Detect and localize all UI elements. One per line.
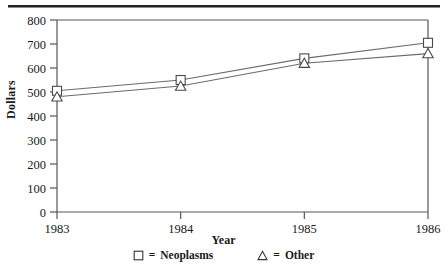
legend-equals-other: =	[273, 249, 280, 261]
data-point-square	[424, 38, 433, 47]
chart-legend: = Neoplasms = Other	[0, 249, 447, 261]
x-axis-title: Year	[0, 233, 447, 248]
y-axis-tick-label: 600	[27, 62, 46, 76]
series-line-other	[57, 54, 428, 97]
y-axis-tick-label: 500	[27, 86, 46, 100]
y-axis-tick-label: 300	[27, 134, 46, 148]
y-axis-tick-label: 200	[27, 158, 46, 172]
legend-label-other: Other	[285, 249, 314, 261]
chart-plot-area: 0100200300400500600700800198319841985198…	[0, 0, 447, 266]
y-axis-tick-label: 800	[27, 14, 46, 28]
legend-entry-other: = Other	[257, 249, 314, 261]
legend-entry-neoplasms: = Neoplasms	[133, 249, 214, 261]
y-axis-tick-label: 700	[27, 38, 46, 52]
chart-svg: 0100200300400500600700800198319841985198…	[0, 0, 447, 266]
figure: 0100200300400500600700800198319841985198…	[0, 0, 447, 266]
y-axis-tick-label: 400	[27, 110, 46, 124]
y-axis-tick-label: 100	[27, 182, 46, 196]
y-axis-tick-label: 0	[40, 206, 46, 220]
series-line-neoplasms	[57, 43, 428, 91]
data-point-triangle	[423, 49, 433, 58]
y-axis-title: Dollars	[4, 65, 19, 135]
legend-label-neoplasms: Neoplasms	[160, 249, 213, 261]
square-marker-icon	[133, 250, 144, 261]
triangle-marker-icon	[257, 250, 268, 261]
legend-equals-neoplasms: =	[149, 249, 156, 261]
